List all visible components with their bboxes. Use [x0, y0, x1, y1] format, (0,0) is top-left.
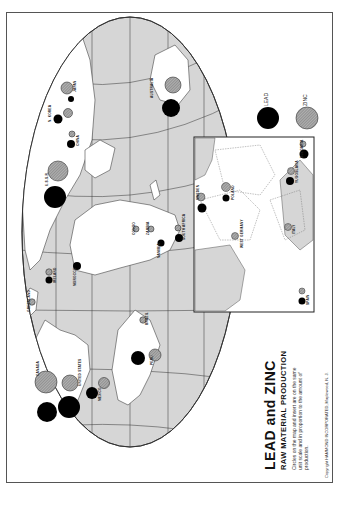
- label-china: CHINA: [76, 135, 80, 146]
- zinc-circle-south-africa: [175, 225, 181, 231]
- legend: [257, 107, 318, 129]
- label-poland: POLAND: [231, 185, 235, 200]
- label-west-germany: WEST GERMANY: [240, 219, 244, 248]
- label-mexico: MEXICO: [98, 387, 102, 401]
- lead-circle-ireland: [46, 277, 53, 284]
- label-peru: PERU: [150, 355, 154, 365]
- map-title: LEAD and ZINC: [262, 360, 278, 470]
- zinc-circle-japan: [61, 82, 73, 94]
- legend-lead-circle: [257, 107, 279, 129]
- label-ussr: U.S.S.R.: [45, 172, 49, 186]
- legend-zinc-label: ZINC: [302, 94, 308, 106]
- label-morocco: MOROCCO: [73, 268, 77, 286]
- zinc-circle-nkorea: [64, 109, 73, 118]
- label-congo: CONGO: [132, 222, 136, 235]
- lead-circle-canada: [37, 402, 57, 422]
- lead-circle-japan: [68, 96, 74, 102]
- label-yugoslavia: YUGOSLAVIA: [295, 160, 299, 183]
- zinc-circle-ussr: [48, 161, 68, 181]
- zinc-circle-australia: [165, 77, 181, 93]
- label-namibia: NAMIBIA: [157, 243, 161, 258]
- lead-circle-nkorea: [54, 115, 63, 124]
- lead-circle-ussr: [44, 186, 66, 208]
- label-zambia: ZAMBIA: [146, 221, 150, 235]
- copyright: Copyright HAMMOND INCORPORATED, Maplewoo…: [324, 372, 329, 478]
- japan: [55, 30, 68, 55]
- zinc-circle-us: [62, 375, 78, 391]
- label-bulgaria: BULGARIA: [300, 140, 304, 158]
- map-note: Circles on the map and insert are on the…: [291, 360, 309, 470]
- map-subtitle: RAW MATERIAL PRODUCTION: [279, 351, 288, 470]
- zinc-circle-ireland: [46, 269, 52, 275]
- label-ireland: IRELAND: [53, 267, 57, 283]
- label-greenland: GREENLAND: [27, 290, 31, 312]
- label-sweden: SWEDEN: [196, 185, 200, 200]
- lead-circle-china: [67, 140, 75, 148]
- zinc-circle-china: [69, 131, 75, 137]
- legend-zinc-circle: [296, 107, 318, 129]
- legend-lead-label: LEAD: [263, 93, 269, 106]
- label-japan: JAPAN: [73, 80, 77, 92]
- label-canada: CANADA: [36, 361, 40, 376]
- lead-circle-peru: [131, 351, 145, 365]
- label-italy: ITALY: [292, 224, 296, 234]
- label-south-africa: SOUTH AFRICA: [182, 214, 186, 240]
- label-brazil: BRAZIL: [145, 312, 149, 325]
- label-nkorea: N. KOREA: [48, 105, 52, 122]
- lead-circle-mexico: [86, 387, 98, 399]
- label-us: UNITED STATES: [78, 359, 82, 386]
- lead-circle-australia: [162, 99, 180, 117]
- lead-circle-us: [58, 396, 80, 418]
- label-spain: SPAIN: [306, 294, 310, 305]
- label-australia: AUSTRALIA: [150, 78, 154, 98]
